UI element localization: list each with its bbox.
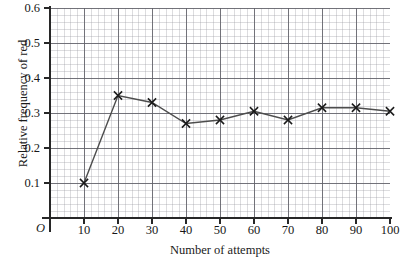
x-tick-label: 50	[203, 224, 237, 237]
data-point-marker	[250, 107, 258, 115]
x-tick-label: 10	[67, 224, 101, 237]
x-tick-mark	[151, 219, 153, 224]
y-tick-mark	[44, 112, 50, 114]
series-markers	[80, 91, 394, 187]
x-tick-mark	[389, 219, 391, 224]
origin-label: O	[36, 221, 45, 236]
x-tick-label: 70	[271, 224, 305, 237]
y-axis-title: Relative frequency of red	[16, 9, 31, 199]
x-tick-label: 80	[305, 224, 339, 237]
x-tick-label: 60	[237, 224, 271, 237]
x-tick-mark	[185, 219, 187, 224]
y-tick-mark	[44, 147, 50, 149]
x-tick-mark	[219, 219, 221, 224]
series-line	[84, 96, 390, 184]
relative-frequency-line-chart: 0.10.20.30.40.50.6 102030405060708090100…	[0, 0, 412, 266]
y-tick-mark	[44, 42, 50, 44]
x-tick-mark	[321, 219, 323, 224]
y-tick-mark	[44, 77, 50, 79]
y-tick-mark	[44, 182, 50, 184]
data-point-marker	[284, 116, 292, 124]
x-tick-mark	[253, 219, 255, 224]
x-tick-label: 100	[373, 224, 407, 237]
data-point-marker	[80, 179, 88, 187]
x-tick-mark	[117, 219, 119, 224]
data-series-layer	[50, 8, 390, 218]
x-tick-label: 40	[169, 224, 203, 237]
x-tick-label: 30	[135, 224, 169, 237]
x-tick-label: 20	[101, 224, 135, 237]
x-axis-title: Number of attempts	[50, 243, 390, 258]
x-tick-mark	[83, 219, 85, 224]
x-tick-mark	[287, 219, 289, 224]
x-tick-mark	[355, 219, 357, 224]
x-tick-label: 90	[339, 224, 373, 237]
y-tick-mark	[44, 7, 50, 9]
